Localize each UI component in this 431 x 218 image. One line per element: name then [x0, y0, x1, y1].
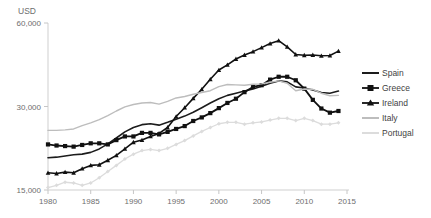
- legend-label: Ireland: [382, 98, 408, 108]
- series-line: [48, 118, 338, 187]
- series-marker: [234, 120, 238, 124]
- series-marker: [63, 144, 67, 148]
- series-marker: [123, 134, 127, 138]
- series-marker: [55, 183, 59, 187]
- series-marker: [336, 49, 341, 53]
- chart-legend: SpainGreeceIrelandItalyPortugal: [362, 68, 414, 138]
- legend-item-italy[interactable]: Italy: [362, 113, 398, 123]
- series-marker: [157, 149, 161, 153]
- y-axis-title: USD: [18, 6, 36, 16]
- line-chart: 60,00030,00015,000 198019851990199520002…: [0, 0, 431, 218]
- x-tick-label: 2015: [338, 197, 356, 206]
- series-marker: [140, 149, 144, 153]
- series-marker: [131, 134, 135, 138]
- series-marker: [166, 146, 170, 150]
- y-tick-label: 15,000: [17, 186, 42, 195]
- x-tick-label: 1985: [82, 197, 100, 206]
- series-marker: [225, 120, 229, 124]
- legend-label: Italy: [382, 113, 398, 123]
- series-marker: [217, 122, 221, 126]
- y-tick-label: 60,000: [17, 19, 42, 28]
- series-marker: [260, 120, 264, 124]
- series-line: [48, 41, 338, 174]
- x-tick-label: 1980: [39, 197, 57, 206]
- series-marker: [89, 141, 93, 145]
- series-ireland: [46, 38, 341, 175]
- series-marker: [72, 181, 76, 185]
- legend-label: Portugal: [382, 128, 414, 138]
- series-marker: [294, 119, 298, 123]
- series-marker: [328, 122, 332, 126]
- series-marker: [268, 118, 272, 122]
- series-marker: [217, 106, 221, 110]
- series-marker: [63, 180, 67, 184]
- series-marker: [106, 142, 110, 146]
- x-axis: 19801985199019952000200520102015: [39, 190, 356, 206]
- series-marker: [208, 126, 212, 130]
- series-marker: [268, 78, 272, 82]
- series-marker: [242, 90, 246, 94]
- series-marker: [294, 78, 298, 82]
- series-marker: [140, 131, 144, 135]
- y-axis: 60,00030,00015,000: [17, 19, 48, 195]
- series-marker: [191, 119, 195, 123]
- y-tick-label: 30,000: [17, 103, 42, 112]
- series-marker: [80, 143, 84, 147]
- series-marker: [97, 141, 101, 145]
- series-marker: [285, 75, 289, 79]
- series-marker: [277, 75, 281, 79]
- legend-item-greece[interactable]: Greece: [362, 83, 410, 93]
- series-marker: [336, 121, 340, 125]
- series-marker: [311, 98, 315, 102]
- series-marker: [114, 138, 118, 142]
- series-marker: [200, 115, 204, 119]
- legend-marker-square: [368, 85, 374, 91]
- series-marker: [46, 142, 50, 146]
- series-marker: [225, 101, 229, 105]
- series-marker: [183, 124, 187, 128]
- series-marker: [234, 97, 238, 101]
- series-marker: [80, 183, 84, 187]
- series-marker: [251, 85, 255, 89]
- legend-item-spain[interactable]: Spain: [362, 68, 404, 78]
- x-tick-label: 1990: [125, 197, 143, 206]
- series-marker: [336, 109, 340, 113]
- series-marker: [46, 186, 50, 190]
- legend-label: Spain: [382, 68, 404, 78]
- series-marker: [277, 116, 281, 120]
- series-marker: [302, 116, 306, 120]
- series-marker: [54, 143, 58, 147]
- series-marker: [174, 127, 178, 131]
- series-marker: [149, 147, 153, 151]
- series-marker: [72, 145, 76, 149]
- legend-item-portugal[interactable]: Portugal: [362, 128, 414, 138]
- series-marker: [174, 142, 178, 146]
- series-marker: [208, 111, 212, 115]
- series-marker: [285, 116, 289, 120]
- legend-label: Greece: [382, 83, 410, 93]
- series-marker: [311, 119, 315, 123]
- x-tick-label: 2005: [253, 197, 271, 206]
- chart-container: 60,00030,00015,000 198019851990199520002…: [0, 0, 431, 218]
- series-layer: [46, 38, 341, 189]
- series-marker: [328, 111, 332, 115]
- legend-item-ireland[interactable]: Ireland: [362, 98, 408, 108]
- series-marker: [166, 130, 170, 134]
- x-tick-label: 2000: [210, 197, 228, 206]
- series-marker: [251, 121, 255, 125]
- series-marker: [319, 122, 323, 126]
- x-tick-label: 2010: [295, 197, 313, 206]
- x-tick-label: 1995: [167, 197, 185, 206]
- series-marker: [242, 122, 246, 126]
- series-marker: [319, 106, 323, 110]
